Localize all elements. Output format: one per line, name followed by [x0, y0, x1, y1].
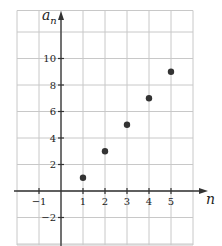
y-tick-label: 6: [50, 106, 56, 117]
x-tick-label: 5: [168, 196, 174, 207]
y-tick-label: −2: [41, 212, 56, 223]
y-tick-label: 2: [50, 159, 56, 170]
axes: [14, 11, 208, 246]
x-tick-label: 2: [102, 196, 108, 207]
y-axis-arrow-icon: [58, 11, 64, 20]
y-tick-label: 8: [50, 80, 56, 91]
data-point: [80, 175, 86, 181]
x-tick-label: 4: [146, 196, 152, 207]
x-tick-label: −1: [32, 196, 47, 207]
data-point: [124, 122, 130, 128]
y-tick-label: 4: [50, 133, 56, 144]
data-point: [102, 148, 108, 154]
y-tick-label: 10: [43, 53, 56, 64]
x-axis-label: n: [206, 191, 215, 207]
x-tick-label: 3: [124, 196, 130, 207]
data-point: [168, 69, 174, 75]
data-point: [146, 95, 152, 101]
x-tick-label: 1: [80, 196, 86, 207]
y-axis-label: an: [42, 7, 57, 26]
sequence-scatter-chart: −112345 −2246810 n an: [0, 0, 222, 246]
grid: [17, 11, 193, 246]
